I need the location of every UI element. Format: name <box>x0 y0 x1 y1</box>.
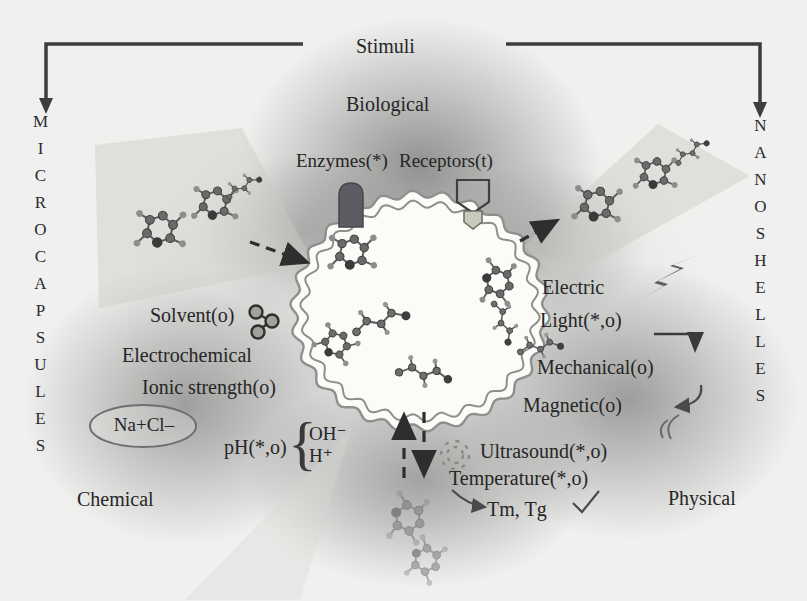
capsule-outer <box>291 191 550 431</box>
wavy-capsule-icon <box>291 191 550 431</box>
released-molecule <box>382 488 449 587</box>
label-ph: pH(*,o) <box>224 437 287 458</box>
sputter-dashes-icon <box>441 441 469 469</box>
beam-upper-left <box>95 128 314 308</box>
label-solvent: Solvent(o) <box>150 305 234 326</box>
category-biological: Biological <box>346 94 429 115</box>
category-chemical: Chemical <box>77 489 154 510</box>
enzyme-cylinder-icon <box>339 183 363 227</box>
label-light: Light(*,o) <box>540 310 622 331</box>
figure-title: Stimuli <box>356 36 415 57</box>
bracket-left-line <box>46 44 303 100</box>
label-temperature: Temperature(*,o) <box>449 468 588 489</box>
category-physical: Physical <box>668 488 736 509</box>
figure-art <box>0 0 807 601</box>
label-proton: H⁺ <box>309 446 333 465</box>
label-hydroxide: OH⁻ <box>309 424 346 443</box>
solvent-molecule-icon <box>250 306 279 339</box>
label-receptors: Receptors(t) <box>399 151 493 171</box>
label-ultrasound: Ultrasound(*,o) <box>480 441 607 462</box>
check-arrow-icon-tm-right <box>573 491 599 512</box>
side-label-microcapsules: MICROCAPSULES <box>30 112 50 463</box>
label-magnetic: Magnetic(o) <box>523 395 622 416</box>
label-mechanical: Mechanical(o) <box>537 357 654 378</box>
press-arrow-icon <box>654 332 704 353</box>
label-ionic-strength: Ionic strength(o) <box>142 377 276 398</box>
bracket-right-line <box>506 44 760 104</box>
label-tm-tg: Tm, Tg <box>487 499 547 520</box>
label-salt: Na+Cl– <box>98 415 190 434</box>
label-electric: Electric <box>542 277 604 298</box>
lightning-bolt-icon <box>632 253 703 304</box>
label-enzymes: Enzymes(*) <box>296 151 388 171</box>
beam-upper-right <box>524 124 750 282</box>
curved-arrow-icon-magnetic <box>676 385 701 407</box>
field-waves-icon <box>661 415 679 439</box>
side-label-nanoshelles: NANOSHELLES <box>750 116 770 413</box>
curved-arrow-icon-tm-left <box>452 490 485 507</box>
label-electrochemical: Electrochemical <box>122 345 252 366</box>
stimuli-responsive-capsule-figure: Stimuli Biological MICROCAPSULES NANOSHE… <box>0 0 807 601</box>
